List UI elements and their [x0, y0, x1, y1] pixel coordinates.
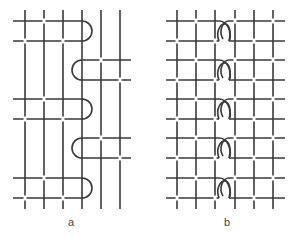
crossing-gap — [234, 58, 237, 63]
crossing-gap — [100, 58, 103, 63]
crossing-gap — [214, 156, 217, 161]
crossing-gap — [119, 78, 122, 83]
panel-b-label: b — [224, 216, 230, 228]
crossing-gap — [100, 136, 103, 141]
crossing-gap — [176, 78, 179, 83]
crossing-gap — [176, 39, 179, 44]
weave-diagram — [0, 0, 295, 237]
crossing-gap — [234, 19, 237, 24]
crossing-gap — [195, 19, 198, 24]
crossing-gap — [234, 176, 237, 181]
crossing-gap — [253, 196, 256, 201]
crossing-gap — [272, 19, 275, 24]
panel-a-label: a — [68, 216, 74, 228]
crossing-gap — [62, 196, 65, 201]
twist-loop — [218, 63, 231, 80]
crossing-gap — [119, 156, 122, 161]
twist-loop — [218, 181, 231, 198]
crossing-gap — [214, 196, 217, 201]
crossing-gap — [272, 136, 275, 141]
crossing-gap — [214, 78, 217, 83]
twist-loop — [218, 24, 231, 41]
crossing-gap — [176, 196, 179, 201]
crossing-gap — [176, 117, 179, 122]
crossing-gap — [43, 176, 46, 181]
twist-loop — [218, 102, 231, 119]
crossing-gap — [272, 58, 275, 63]
crossing-gap — [176, 156, 179, 161]
crossing-gap — [24, 39, 27, 44]
crossing-gap — [253, 117, 256, 122]
crossing-gap — [24, 196, 27, 201]
crossing-gap — [214, 39, 217, 44]
crossing-gap — [62, 39, 65, 44]
crossing-gap — [272, 97, 275, 102]
crossing-gap — [195, 136, 198, 141]
crossing-gap — [234, 97, 237, 102]
crossing-gap — [253, 39, 256, 44]
crossing-gap — [214, 117, 217, 122]
crossing-gap — [253, 156, 256, 161]
crossing-gap — [195, 97, 198, 102]
crossing-gap — [272, 176, 275, 181]
crossing-gap — [24, 117, 27, 122]
crossing-gap — [62, 117, 65, 122]
twist-loop — [218, 141, 231, 158]
crossing-gap — [43, 97, 46, 102]
crossing-gap — [234, 136, 237, 141]
panel-a-structure — [13, 10, 131, 209]
crossing-gap — [253, 78, 256, 83]
crossing-gap — [195, 176, 198, 181]
panel-b-structure — [166, 10, 285, 209]
crossing-gap — [43, 19, 46, 24]
crossing-gap — [195, 58, 198, 63]
